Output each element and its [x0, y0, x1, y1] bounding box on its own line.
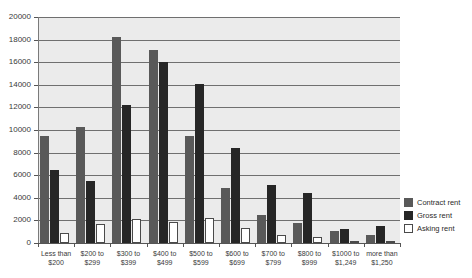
bar-asking	[277, 235, 286, 243]
bar-contract	[366, 235, 375, 243]
bar-group	[330, 17, 366, 243]
x-tick-label: $800 to $999	[291, 249, 327, 267]
bar-gross	[303, 193, 312, 243]
bar-contract	[221, 188, 230, 243]
bar-asking	[169, 222, 178, 243]
bar-gross	[267, 185, 276, 243]
bar-group	[366, 17, 402, 243]
x-tick-label: $600 to $699	[219, 249, 255, 267]
x-tick-label: $700 to $799	[255, 249, 291, 267]
legend-swatch-icon	[404, 198, 413, 207]
bar-chart: 0200040006000800010000120001400016000180…	[0, 0, 472, 278]
y-tick-label: 20000	[9, 13, 31, 21]
x-tick-label: $200 to $299	[74, 249, 110, 267]
bar-contract	[40, 136, 49, 243]
x-tick-mark	[328, 243, 329, 247]
bar-contract	[149, 50, 158, 243]
bar-contract	[293, 223, 302, 243]
bar-group	[293, 17, 329, 243]
x-tick-mark	[74, 243, 75, 247]
bar-group	[112, 17, 148, 243]
bar-asking	[96, 224, 105, 243]
legend-label: Contract rent	[417, 198, 460, 207]
y-tick-label: 4000	[13, 194, 31, 202]
x-tick-mark	[291, 243, 292, 247]
chart-legend: Contract rentGross rentAsking rent	[404, 196, 472, 235]
x-tick-label: $400 to $499	[147, 249, 183, 267]
legend-swatch-icon	[404, 224, 413, 233]
bar-group	[76, 17, 112, 243]
legend-item-asking[interactable]: Asking rent	[404, 222, 472, 234]
bar-group	[40, 17, 76, 243]
bar-contract	[112, 37, 121, 243]
y-tick-label: 2000	[13, 216, 31, 224]
x-tick-label: Less than $200	[38, 249, 74, 267]
x-tick-mark	[183, 243, 184, 247]
x-tick-mark	[255, 243, 256, 247]
bar-contract	[257, 215, 266, 243]
y-tick-label: 14000	[9, 81, 31, 89]
legend-item-gross[interactable]: Gross rent	[404, 209, 472, 221]
bar-contract	[76, 127, 85, 243]
legend-swatch-icon	[404, 211, 413, 220]
bar-group	[257, 17, 293, 243]
x-tick-mark	[219, 243, 220, 247]
x-tick-mark	[364, 243, 365, 247]
x-tick-mark	[400, 243, 401, 247]
x-tick-mark	[147, 243, 148, 247]
bar-gross	[340, 229, 349, 243]
bar-gross	[159, 62, 168, 243]
bar-gross	[86, 181, 95, 243]
bars-layer	[38, 17, 400, 243]
x-tick-label: $500 to $599	[183, 249, 219, 267]
x-tick-label: $300 to $399	[110, 249, 146, 267]
x-tick-mark	[110, 243, 111, 247]
y-tick-label: 18000	[9, 36, 31, 44]
legend-label: Gross rent	[417, 211, 452, 220]
y-tick-label: 8000	[13, 149, 31, 157]
bar-gross	[376, 226, 385, 244]
bar-group	[221, 17, 257, 243]
bar-contract	[185, 136, 194, 243]
y-tick-label: 10000	[9, 126, 31, 134]
bar-gross	[195, 84, 204, 243]
bar-group	[185, 17, 221, 243]
legend-item-contract[interactable]: Contract rent	[404, 196, 472, 208]
bar-gross	[50, 170, 59, 243]
bar-gross	[122, 105, 131, 243]
x-tick-label: $1000 to $1,249	[328, 249, 364, 267]
bar-contract	[330, 231, 339, 243]
bar-asking	[60, 233, 69, 243]
y-tick-label: 16000	[9, 58, 31, 66]
x-tick-mark	[38, 243, 39, 247]
x-axis: Less than $200$200 to $299$300 to $399$4…	[38, 243, 400, 278]
x-tick-label: more than $1,250	[364, 249, 400, 267]
bar-asking	[241, 228, 250, 243]
bar-asking	[205, 218, 214, 243]
y-axis: 0200040006000800010000120001400016000180…	[0, 0, 38, 278]
y-tick-label: 0	[27, 239, 31, 247]
bar-group	[149, 17, 185, 243]
bar-gross	[231, 148, 240, 243]
legend-label: Asking rent	[417, 224, 455, 233]
y-tick-label: 6000	[13, 171, 31, 179]
y-tick-label: 12000	[9, 103, 31, 111]
bar-asking	[132, 219, 141, 243]
